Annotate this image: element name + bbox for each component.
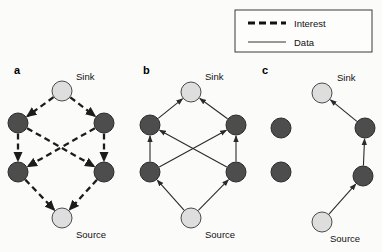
source-label: Source — [330, 233, 360, 244]
node-source[interactable] — [181, 208, 201, 228]
panels-layer: aSinkSourcebSinkSourcecSinkSource — [8, 64, 375, 244]
figure-canvas: aSinkSourcebSinkSourcecSinkSource Intere… — [0, 0, 382, 252]
edge-source-to-ll — [157, 180, 184, 210]
edge-lr-to-source — [70, 180, 97, 210]
node-relay-lr[interactable] — [94, 162, 114, 182]
node-relay-ur[interactable] — [355, 118, 375, 138]
legend-layer: InterestData — [235, 10, 372, 52]
panel-c-nodes — [271, 83, 375, 232]
legend-label: Data — [294, 37, 315, 48]
panel-a: aSinkSource — [8, 64, 114, 240]
edge-sink-to-ul — [27, 97, 53, 116]
panel-b-edges — [150, 99, 236, 211]
node-sink[interactable] — [52, 81, 72, 101]
panel-c: cSinkSource — [262, 64, 375, 244]
panel-b-nodes — [140, 82, 246, 228]
node-relay-ul[interactable] — [8, 113, 28, 133]
node-source[interactable] — [312, 212, 332, 232]
panel-letter-c: c — [262, 64, 268, 76]
edge-ul-to-sink — [158, 99, 182, 119]
panel-a-nodes — [8, 81, 114, 228]
node-relay-ll[interactable] — [8, 162, 28, 182]
source-label: Source — [205, 229, 235, 240]
panel-letter-a: a — [14, 64, 21, 76]
panel-b: bSinkSource — [140, 64, 246, 240]
edge-ur-to-sink — [200, 99, 228, 119]
panel-a-edges — [18, 97, 104, 210]
node-relay-ll[interactable] — [271, 162, 291, 182]
sink-label: Sink — [337, 72, 356, 83]
sink-label: Sink — [205, 71, 224, 82]
node-relay-ur[interactable] — [226, 115, 246, 135]
edge-source-to-lr — [329, 184, 356, 214]
node-relay-ul[interactable] — [140, 115, 160, 135]
legend-label: Interest — [294, 18, 326, 29]
node-relay-lr[interactable] — [226, 162, 246, 182]
panel-c-edges — [329, 100, 365, 214]
edge-source-to-lr — [198, 180, 228, 211]
node-sink[interactable] — [181, 82, 201, 102]
edge-ur-to-sink — [331, 100, 357, 121]
node-relay-ul[interactable] — [271, 118, 291, 138]
edge-ll-to-source — [25, 180, 54, 210]
edge-lr-to-ur — [363, 139, 364, 166]
sink-label: Sink — [76, 71, 95, 82]
panel-letter-b: b — [143, 64, 150, 76]
diagram-svg: aSinkSourcebSinkSourcecSinkSource Intere… — [0, 0, 382, 252]
source-label: Source — [76, 229, 106, 240]
node-sink[interactable] — [312, 83, 332, 103]
node-relay-ll[interactable] — [140, 162, 160, 182]
node-source[interactable] — [52, 208, 72, 228]
node-relay-ur[interactable] — [94, 113, 114, 133]
edge-sink-to-ur — [70, 97, 95, 116]
node-relay-lr[interactable] — [353, 166, 373, 186]
